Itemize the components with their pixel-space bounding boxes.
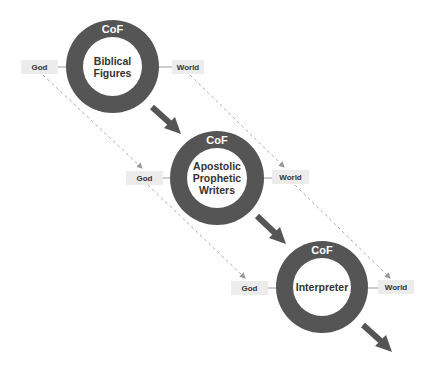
world-tag: World	[378, 280, 414, 294]
stage-name: Biblical Figures	[94, 55, 132, 79]
flow-arrow-1	[152, 107, 181, 134]
stage-name: Apostolic Prophetic Writers	[193, 160, 241, 196]
god-tag: God	[126, 171, 163, 185]
flow-arrow-3	[363, 325, 392, 352]
stage-ring-interpreter: CoF Interpreter	[276, 241, 368, 333]
cof-label: CoF	[170, 134, 264, 146]
god-tag: God	[21, 60, 58, 74]
world-tag: World	[172, 60, 204, 74]
stage-name: Interpreter	[296, 281, 349, 293]
stage-ring-biblical-figures: CoF Biblical Figures	[66, 20, 159, 113]
flow-arrow-2	[257, 216, 286, 244]
world-tag: World	[272, 170, 309, 184]
cof-label: CoF	[66, 23, 159, 35]
stage-ring-apostolic-prophetic-writers: CoF Apostolic Prophetic Writers	[170, 131, 264, 225]
god-tag: God	[231, 281, 268, 295]
cof-label: CoF	[276, 244, 368, 256]
